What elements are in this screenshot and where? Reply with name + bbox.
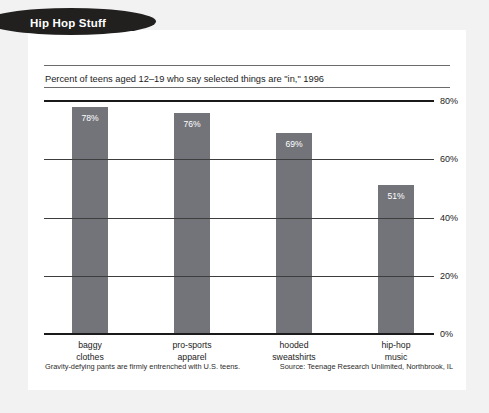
section-banner-label: Hip Hop Stuff (30, 14, 170, 32)
page-root: Hip Hop Stuff Percent of teens aged 12–1… (0, 0, 489, 413)
x-axis-category-label-line: music (351, 352, 441, 364)
y-axis-tick-label: 0% (440, 329, 480, 339)
gridline-20 (44, 276, 434, 277)
title-rule-bottom (44, 87, 450, 88)
y-axis-tick-label: 80% (440, 96, 480, 106)
y-axis-tick-label: 60% (440, 154, 480, 164)
x-axis-category-label-line: pro-sports (147, 340, 237, 352)
x-axis-category-label-line: baggy (45, 340, 135, 352)
bar-value-label: 51% (378, 191, 414, 201)
y-axis-tick-label: 40% (440, 213, 480, 223)
gridline-60 (44, 159, 434, 160)
x-axis-category-label-line: apparel (147, 352, 237, 364)
chart-title: Percent of teens aged 12–19 who say sele… (45, 71, 449, 87)
footer-source: Source: Teenage Research Unlimited, Nort… (228, 362, 453, 372)
axis-baseline (44, 333, 434, 335)
x-axis-category-label: hip-hopmusic (351, 340, 441, 363)
plot-area: 80%60%40%20%0%78%baggyclothes76%pro-spor… (44, 90, 450, 340)
x-axis-category-label-line: hooded (249, 340, 339, 352)
chart-card: Percent of teens aged 12–19 who say sele… (28, 30, 466, 390)
bar (276, 133, 312, 334)
x-axis-category-label-line: sweatshirts (249, 352, 339, 364)
bar-value-label: 69% (276, 139, 312, 149)
gridline-40 (44, 218, 434, 219)
x-axis-category-label: baggyclothes (45, 340, 135, 363)
bar (378, 185, 414, 334)
bar-value-label: 78% (72, 113, 108, 123)
title-rule-top (44, 65, 450, 66)
bar-value-label: 76% (174, 119, 210, 129)
x-axis-category-label: pro-sportsapparel (147, 340, 237, 363)
x-axis-category-label-line: hip-hop (351, 340, 441, 352)
bar (174, 113, 210, 334)
x-axis-category-label: hoodedsweatshirts (249, 340, 339, 363)
gridline-80 (44, 100, 434, 102)
y-axis-tick-label: 20% (440, 271, 480, 281)
x-axis-category-label-line: clothes (45, 352, 135, 364)
bar (72, 107, 108, 334)
